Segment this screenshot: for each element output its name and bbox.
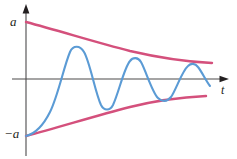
y-axis-label-negative-a: −a [4,127,19,140]
damped-oscillation-figure: a −a t [0,0,237,159]
y-axis-label-a: a [10,15,17,28]
x-axis-arrowhead [220,76,230,82]
upper-envelope-curve [26,22,212,63]
plot-canvas [0,0,237,159]
x-axis-label-t: t [221,84,224,96]
y-axis-arrowhead [23,4,30,14]
